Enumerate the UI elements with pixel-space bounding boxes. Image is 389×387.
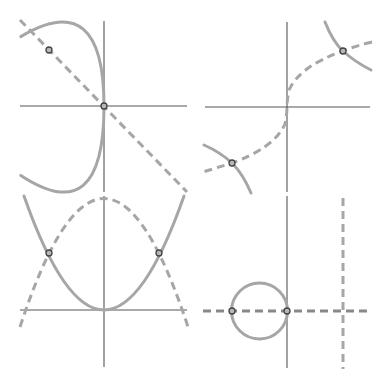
panel-top-left — [20, 20, 187, 192]
intersection-point — [101, 103, 107, 109]
panel-top-right — [203, 22, 372, 193]
intersection-point — [156, 250, 162, 256]
intersection-point — [284, 308, 290, 314]
left-parabola-curve — [21, 22, 104, 192]
panel-bottom-left — [20, 196, 188, 367]
panel-bottom-right — [203, 196, 371, 369]
intersection-point — [229, 160, 235, 166]
intersection-diagram — [0, 0, 389, 387]
hyperbola-upper-branch — [325, 22, 371, 70]
intersection-point — [340, 48, 346, 54]
intersection-point — [46, 250, 52, 256]
intersection-point — [229, 308, 235, 314]
intersection-point — [46, 47, 52, 53]
